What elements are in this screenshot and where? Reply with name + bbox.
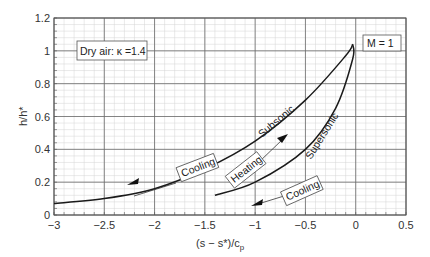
y-axis-label: h/h* [17, 106, 29, 126]
subsonic-label: Subsonic [256, 103, 297, 140]
y-tick-label: 0.4 [35, 143, 50, 155]
kappa-box: Dry air: κ =1.4 [77, 41, 147, 60]
arrowhead-icon [277, 134, 288, 143]
y-tick-label: 1 [44, 45, 50, 57]
y-tick-label: 0.8 [35, 78, 50, 90]
y-tick-labels: 00.20.40.60.811.2 [35, 12, 50, 221]
x-tick-label: −1.5 [194, 219, 216, 231]
arrowhead-icon [127, 178, 139, 185]
x-tick-label: 0 [353, 219, 359, 231]
x-tick-label: −2 [148, 219, 161, 231]
supersonic-label: Supersonic [303, 110, 341, 161]
rayleigh-line-chart: −3−2.5−2−1.5−1−0.500.5 00.20.40.60.811.2… [0, 0, 430, 257]
cooling-arrow-lower: Cooling [251, 176, 323, 206]
y-tick-label: 0.6 [35, 111, 50, 123]
x-tick-label: −1 [249, 219, 262, 231]
x-tick-label: 0.5 [398, 219, 413, 231]
x-tick-labels: −3−2.5−2−1.5−1−0.500.5 [48, 219, 414, 231]
arrowhead-icon [251, 199, 263, 206]
y-tick-label: 1.2 [35, 12, 50, 24]
kappa-text: Dry air: κ =1.4 [80, 45, 146, 57]
y-tick-label: 0.2 [35, 176, 50, 188]
y-tick-label: 0 [44, 209, 50, 221]
x-axis-label: (s − s*)/cp [196, 237, 245, 252]
mach-box: M = 1 [363, 35, 401, 51]
heating-arrow: Heating [225, 134, 288, 188]
mach-text: M = 1 [367, 37, 394, 49]
x-tick-label: −0.5 [295, 219, 317, 231]
x-tick-label: −2.5 [93, 219, 115, 231]
